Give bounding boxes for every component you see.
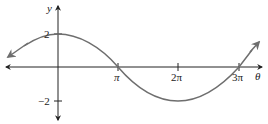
tick-label-2pi: 2π [171, 71, 183, 83]
tick-label-yneg2: −2 [38, 95, 50, 107]
curve-left-arrow [8, 43, 28, 57]
x-axis-label: θ [255, 70, 261, 82]
tick-label-pi: π [114, 71, 120, 83]
curve-right-arrow [250, 42, 259, 52]
y-axis-label: y [46, 2, 52, 14]
tick-label-y2: 2 [44, 28, 50, 40]
chart: y θ 2 −2 π 2π 3π [0, 0, 268, 124]
tick-label-3pi: 3π [232, 71, 244, 83]
